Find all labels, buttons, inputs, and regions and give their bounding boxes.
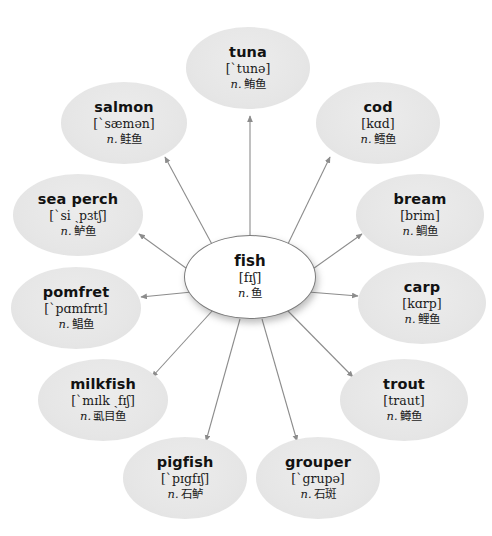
translation: 鳟鱼 [400,409,422,423]
translation: 石斑 [314,487,336,501]
translation: 鲷鱼 [416,224,438,238]
part-of-speech: n. [60,224,71,238]
pronunciation: [ˋpɑmfrɪt] [44,302,107,316]
gloss: n.鱼 [238,287,262,300]
gloss: n.鲈鱼 [60,225,95,238]
mind-map-canvas: tuna[ˋtunə]n.鲔鱼salmon[ˋsæmən]n.鲑鱼cod[kɑd… [0,0,492,536]
part-of-speech: n. [230,77,241,91]
gloss: n.鲷鱼 [402,225,437,238]
pronunciation: [ˋtunə] [226,62,271,76]
headword: trout [383,377,425,392]
root-node-fish[interactable]: fish[fɪʃ]n.鱼 [184,235,316,319]
headword: salmon [94,100,153,115]
headword: bream [394,192,447,207]
gloss: n.鲑鱼 [106,133,141,146]
edge-fish-to-salmon [165,157,214,248]
part-of-speech: n. [58,317,69,331]
node-salmon[interactable]: salmon[ˋsæmən]n.鲑鱼 [61,82,187,164]
gloss: n.鳟鱼 [386,410,421,423]
node-trout[interactable]: trout[traut]n.鳟鱼 [340,359,468,441]
node-pomfret[interactable]: pomfret[ˋpɑmfrɪt]n.鲳鱼 [11,267,141,349]
part-of-speech: n. [360,132,371,146]
edge-fish-to-trout [287,310,353,377]
headword: pomfret [43,285,109,300]
part-of-speech: n. [80,409,91,423]
part-of-speech: n. [238,286,249,300]
gloss: n.石斑 [300,488,335,501]
edge-fish-to-bream [310,234,362,271]
edge-fish-to-sea-perch [139,234,190,271]
node-milkfish[interactable]: milkfish[ˋmɪlk ˏfɪʃ]n.虱目鱼 [38,359,168,441]
translation: 鳕鱼 [374,132,396,146]
edge-fish-to-carp [308,292,358,296]
headword: cod [363,100,392,115]
gloss: n.虱目鱼 [80,410,126,423]
pronunciation: [ˋsæmən] [93,117,154,131]
node-sea-perch[interactable]: sea perch[ˋsi ˏpɜtʃ]n.鲈鱼 [13,174,143,256]
pronunciation: [brim] [400,209,440,223]
gloss: n.鲔鱼 [230,78,265,91]
part-of-speech: n. [300,487,311,501]
edge-fish-to-pigfish [206,319,240,441]
node-tuna[interactable]: tuna[ˋtunə]n.鲔鱼 [186,27,310,109]
translation: 虱目鱼 [93,409,126,423]
headword: fish [234,254,266,270]
gloss: n.石鲈 [167,488,202,501]
part-of-speech: n. [106,132,117,146]
gloss: n.鲤鱼 [404,313,439,326]
part-of-speech: n. [404,312,415,326]
translation: 鲳鱼 [72,317,94,331]
translation: 鲑鱼 [120,132,142,146]
pronunciation: [ˋmɪlk ˏfɪʃ] [71,394,135,408]
pronunciation: [ˋsi ˏpɜtʃ] [49,209,106,223]
part-of-speech: n. [386,409,397,423]
translation: 鱼 [251,286,262,300]
translation: 鲤鱼 [418,312,440,326]
headword: tuna [229,45,267,60]
node-grouper[interactable]: grouper[ˋgrupə]n.石斑 [256,437,380,519]
headword: milkfish [70,377,136,392]
edge-fish-to-cod [286,157,330,248]
node-pigfish[interactable]: pigfish[ˋpɪgfɪʃ]n.石鲈 [123,437,247,519]
gloss: n.鳕鱼 [360,133,395,146]
pronunciation: [ˋgrupə] [291,472,344,486]
pronunciation: [kɑrp] [402,297,441,311]
edge-fish-to-pomfret [141,292,192,297]
part-of-speech: n. [402,224,413,238]
translation: 鲈鱼 [74,224,96,238]
pronunciation: [ˋpɪgfɪʃ] [161,472,209,486]
node-carp[interactable]: carp[kɑrp]n.鲤鱼 [358,262,486,344]
headword: grouper [285,455,351,470]
translation: 鲔鱼 [244,77,266,91]
node-bream[interactable]: bream[brim]n.鲷鱼 [356,174,484,256]
translation: 石鲈 [181,487,203,501]
headword: pigfish [157,455,214,470]
part-of-speech: n. [167,487,178,501]
edge-fish-to-milkfish [152,310,213,377]
headword: sea perch [38,192,118,207]
headword: carp [404,280,440,295]
node-cod[interactable]: cod[kɑd]n.鳕鱼 [316,82,440,164]
pronunciation: [kɑd] [361,117,394,131]
pronunciation: [traut] [383,394,424,408]
pronunciation: [fɪʃ] [239,271,262,286]
edge-fish-to-grouper [262,319,297,441]
gloss: n.鲳鱼 [58,318,93,331]
